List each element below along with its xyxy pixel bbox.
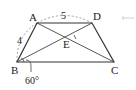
- length-AD: 5: [61, 10, 66, 21]
- angle-mark-E: [74, 35, 76, 39]
- length-AB: 4: [17, 35, 22, 46]
- label-D: D: [93, 10, 101, 22]
- diagonal-BD: [17, 23, 92, 62]
- angle-B-value: 60°: [25, 75, 39, 86]
- label-C: C: [111, 64, 118, 76]
- geometry-diagram: A D B C E 5 4 60°: [0, 0, 136, 90]
- label-A: A: [29, 11, 37, 23]
- label-E: E: [63, 38, 70, 50]
- label-B: B: [11, 64, 18, 76]
